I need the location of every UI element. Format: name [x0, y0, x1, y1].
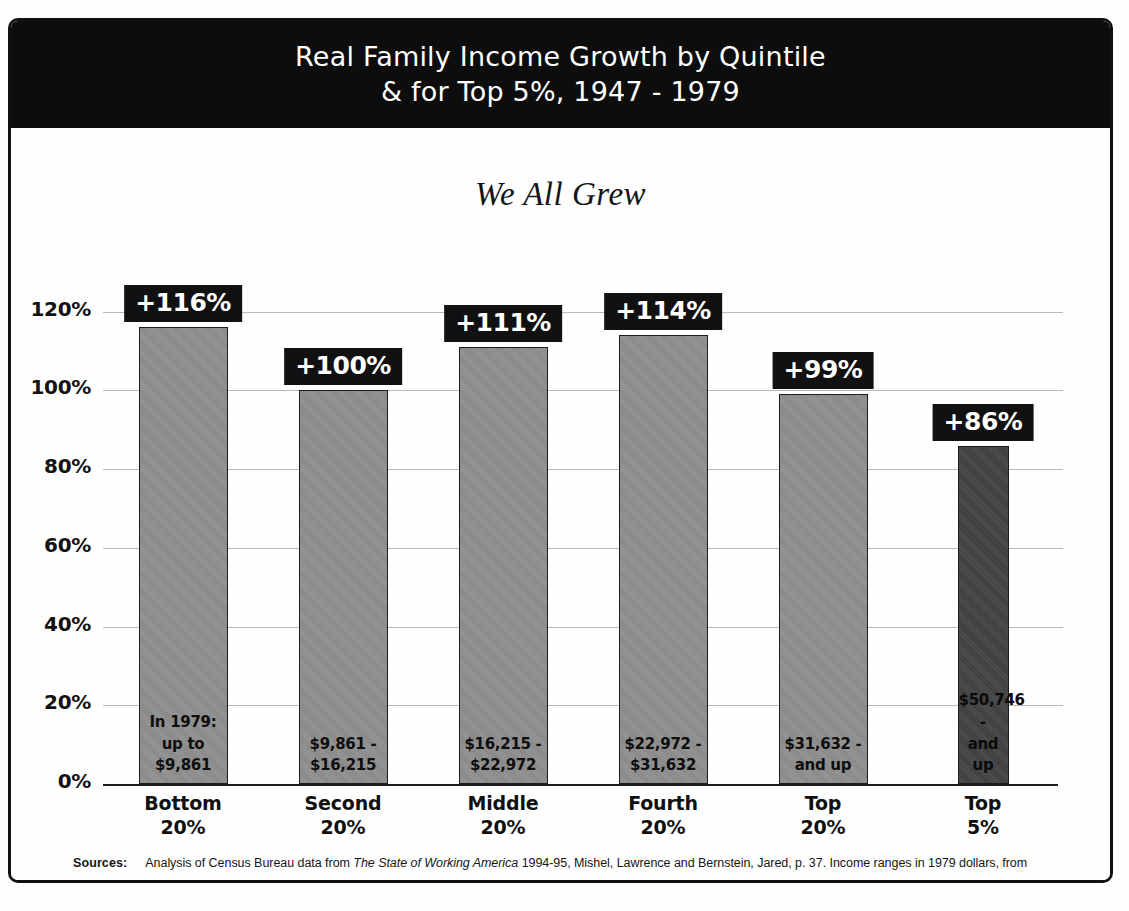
bar-income-range-line: and up	[780, 755, 867, 777]
x-axis-category-1: Second20%	[305, 792, 382, 840]
gridline-20	[103, 705, 1063, 706]
value-label-3: +114%	[604, 293, 722, 330]
x-axis-category-line: Bottom	[144, 792, 221, 816]
x-axis-category-line: Top	[801, 792, 846, 816]
x-axis-category-0: Bottom20%	[144, 792, 221, 840]
bar-income-range-5: $50,746 -and up	[959, 690, 1008, 777]
value-label-5: +86%	[933, 404, 1034, 441]
axis-baseline	[103, 784, 1058, 786]
title-banner: Real Family Income Growth by Quintile & …	[11, 21, 1110, 128]
title-line-1: Real Family Income Growth by Quintile	[295, 40, 826, 75]
source-text-part1: Analysis of Census Bureau data from	[145, 856, 353, 870]
bar-income-range-line: $22,972 -	[620, 734, 707, 756]
value-label-1: +100%	[284, 348, 402, 385]
x-axis-category-line: Top	[965, 792, 1002, 816]
plot-area: 0%20%40%60%80%100%120%In 1979:up to$9,86…	[103, 292, 1063, 784]
y-axis-tick-80%: 80%	[44, 454, 91, 478]
chart-sheet: We All Grew 0%20%40%60%80%100%120%In 197…	[11, 128, 1110, 880]
y-axis-tick-40%: 40%	[44, 612, 91, 636]
bar-income-range-line: $22,972	[460, 755, 547, 777]
bar-income-range-line: $31,632	[620, 755, 707, 777]
source-note: Sources: Analysis of Census Bureau data …	[11, 856, 1110, 870]
source-label: Sources:	[73, 856, 127, 870]
y-axis-tick-0%: 0%	[58, 769, 91, 793]
bar-0: In 1979:up to$9,861	[139, 327, 228, 784]
bar-income-range-line: $9,861 -	[300, 734, 387, 756]
bar-income-range-line: up to	[140, 734, 227, 756]
gridline-40	[103, 627, 1063, 628]
x-axis-category-5: Top5%	[965, 792, 1002, 840]
gridline-60	[103, 548, 1063, 549]
x-axis-category-line: 20%	[144, 816, 221, 840]
x-axis-category-line: 20%	[305, 816, 382, 840]
poster-page: Real Family Income Growth by Quintile & …	[0, 0, 1129, 911]
x-axis-category-line: 20%	[468, 816, 539, 840]
poster-frame: Real Family Income Growth by Quintile & …	[8, 18, 1113, 883]
y-axis-tick-120%: 120%	[30, 297, 91, 321]
source-title-italic: The State of Working America	[353, 856, 518, 870]
bar-income-range-line: $50,746 -	[959, 690, 1008, 734]
x-axis-category-3: Fourth20%	[628, 792, 698, 840]
bar-income-range-0: In 1979:up to$9,861	[140, 712, 227, 777]
bar-2: $16,215 -$22,972	[459, 347, 548, 784]
gridline-80	[103, 469, 1063, 470]
bar-income-range-line: and up	[959, 734, 1008, 778]
chart-subtitle: We All Grew	[11, 176, 1110, 213]
bar-4: $31,632 -and up	[779, 394, 868, 784]
bar-income-range-line: $9,861	[140, 755, 227, 777]
bar-income-range-3: $22,972 -$31,632	[620, 734, 707, 778]
source-text-part2: 1994-95, Mishel, Lawrence and Bernstein,…	[518, 856, 1027, 870]
y-axis-tick-20%: 20%	[44, 690, 91, 714]
gridline-100	[103, 390, 1063, 391]
bar-income-range-line: In 1979:	[140, 712, 227, 734]
bar-income-range-line: $16,215 -	[460, 734, 547, 756]
x-axis-category-line: Fourth	[628, 792, 698, 816]
x-axis-category-line: 20%	[628, 816, 698, 840]
x-axis-category-line: Middle	[468, 792, 539, 816]
x-axis-category-line: 5%	[965, 816, 1002, 840]
gridline-120	[103, 312, 1063, 313]
bar-1: $9,861 -$16,215	[299, 390, 388, 784]
x-axis-category-line: 20%	[801, 816, 846, 840]
value-label-0: +116%	[124, 285, 242, 322]
bar-income-range-line: $31,632 -	[780, 734, 867, 756]
bar-3: $22,972 -$31,632	[619, 335, 708, 784]
title-line-2: & for Top 5%, 1947 - 1979	[381, 75, 740, 110]
x-axis-category-2: Middle20%	[468, 792, 539, 840]
bar-5: $50,746 -and up	[958, 446, 1009, 784]
bar-income-range-4: $31,632 -and up	[780, 734, 867, 778]
value-label-4: +99%	[773, 352, 874, 389]
x-axis-category-line: Second	[305, 792, 382, 816]
y-axis-tick-60%: 60%	[44, 533, 91, 557]
source-text: Analysis of Census Bureau data from The …	[145, 856, 1027, 870]
bar-income-range-line: $16,215	[300, 755, 387, 777]
bar-income-range-2: $16,215 -$22,972	[460, 734, 547, 778]
x-axis-category-4: Top20%	[801, 792, 846, 840]
y-axis-tick-100%: 100%	[30, 376, 91, 400]
bar-income-range-1: $9,861 -$16,215	[300, 734, 387, 778]
value-label-2: +111%	[444, 305, 562, 342]
